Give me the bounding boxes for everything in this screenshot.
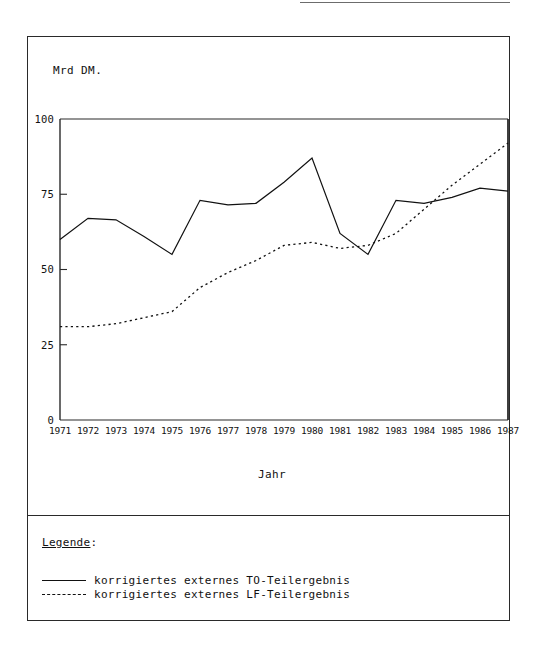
legend-dashed-swatch	[42, 594, 86, 595]
legend-entries: korrigiertes externes TO-Teilergebniskor…	[42, 573, 350, 601]
legend-solid-swatch	[42, 580, 86, 581]
legend-entry-label: korrigiertes externes TO-Teilergebnis	[94, 574, 350, 587]
chart-page: Mrd DM. 100 75 50 25 0 19711972197319741…	[0, 0, 544, 648]
legend-heading-colon: :	[90, 536, 97, 549]
legend-heading: Legende:	[42, 536, 97, 549]
legend-entry-label: korrigiertes externes LF-Teilergebnis	[94, 588, 350, 601]
legend-heading-text: Legende	[42, 536, 90, 549]
legend-entry: korrigiertes externes LF-Teilergebnis	[42, 587, 350, 601]
legend-block: Legende: korrigiertes externes TO-Teiler…	[0, 0, 544, 648]
legend-entry: korrigiertes externes TO-Teilergebnis	[42, 573, 350, 587]
